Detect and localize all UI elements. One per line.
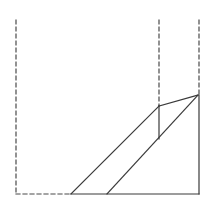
left-diagonal: [71, 106, 159, 194]
geometric-diagram: [0, 0, 215, 209]
solid-shape: [71, 95, 199, 194]
dashed-guides: [16, 20, 199, 194]
